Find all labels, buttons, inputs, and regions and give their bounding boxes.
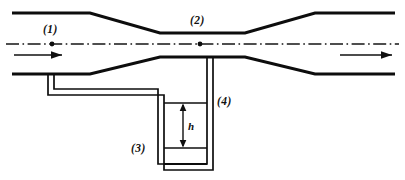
pipe-bottom-wall: [12, 57, 395, 74]
label-section-3: (3): [131, 142, 146, 155]
outlet-flow-arrow: [340, 51, 392, 59]
tap-point-section-2: [198, 42, 203, 47]
diagram-canvas: (1) (2) (3) (4) h: [0, 0, 405, 180]
inlet-flow-arrow-head: [51, 51, 62, 59]
height-dimension-arrowhead-top: [180, 104, 187, 112]
inlet-flow-arrow: [14, 51, 62, 59]
outlet-flow-arrow-head: [381, 51, 392, 59]
height-dimension-arrow: [180, 104, 187, 148]
label-section-1: (1): [43, 23, 58, 36]
label-section-4: (4): [217, 95, 232, 108]
tap-point-section-1: [50, 42, 55, 47]
height-dimension-arrowhead-bottom: [180, 140, 187, 148]
label-section-2: (2): [190, 14, 205, 27]
venturi-meter-figure: (1) (2) (3) (4) h: [0, 0, 405, 180]
label-height-h: h: [188, 120, 194, 132]
